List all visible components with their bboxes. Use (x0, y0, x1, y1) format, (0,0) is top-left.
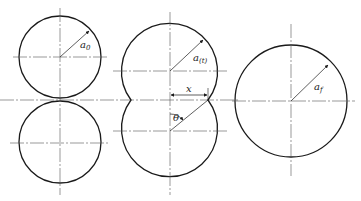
stage-final: af (232, 24, 355, 176)
radius-label-at: a(t) (193, 52, 208, 65)
centerlines (232, 24, 355, 176)
radius-label-af: af (314, 81, 324, 94)
neck-label-x: x (186, 83, 192, 94)
stage-initial: a0 (10, 8, 108, 195)
radius-arrow (291, 65, 328, 101)
sintering-diagram: a0 a(t) x θ af (0, 0, 361, 201)
stage-intermediate: a(t) x θ (113, 12, 228, 195)
angle-label-theta: θ (173, 112, 179, 123)
radius-label-a0: a0 (80, 39, 91, 52)
